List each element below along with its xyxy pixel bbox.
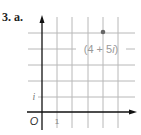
x-tick-label: 1 bbox=[55, 117, 60, 126]
point-label: (4 + 5i) bbox=[84, 43, 119, 55]
x-arrow-icon bbox=[129, 110, 137, 115]
y-arrow-icon bbox=[40, 15, 45, 23]
y-tick-label: i bbox=[33, 91, 36, 102]
point-4-plus-5i bbox=[101, 30, 106, 35]
axes bbox=[27, 15, 137, 130]
origin-label: O bbox=[30, 115, 39, 127]
complex-plane-diagram: (4 + 5i) i O 1 bbox=[0, 0, 141, 135]
